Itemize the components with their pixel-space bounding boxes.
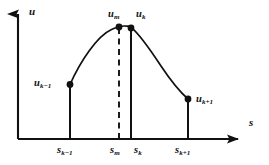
data-point-u-k-minus-1: [67, 81, 74, 88]
point-label-u-k-minus-1: uk−1: [34, 78, 51, 89]
tick-label-s-k-plus-1: sk+1: [175, 145, 190, 156]
curve-u-of-s: [70, 26, 188, 99]
x-axis-label: s: [249, 117, 253, 128]
data-point-u-k-plus-1: [185, 96, 192, 103]
point-label-u-m: um: [108, 9, 120, 20]
tick-label-s-m: sm: [110, 145, 120, 156]
tick-label-s-k-minus-1: sk−1: [57, 145, 73, 156]
y-axis-label: u: [29, 6, 35, 17]
data-point-u-k: [128, 25, 135, 32]
data-point-u-m: [116, 24, 123, 31]
point-label-u-k-plus-1: uk+1: [196, 94, 213, 105]
figure-container: u s uk−1 um uk uk+1 sk−1 sm sk sk+1: [0, 0, 269, 165]
point-label-u-k: uk: [136, 9, 146, 20]
tick-label-s-k: sk: [134, 145, 142, 156]
